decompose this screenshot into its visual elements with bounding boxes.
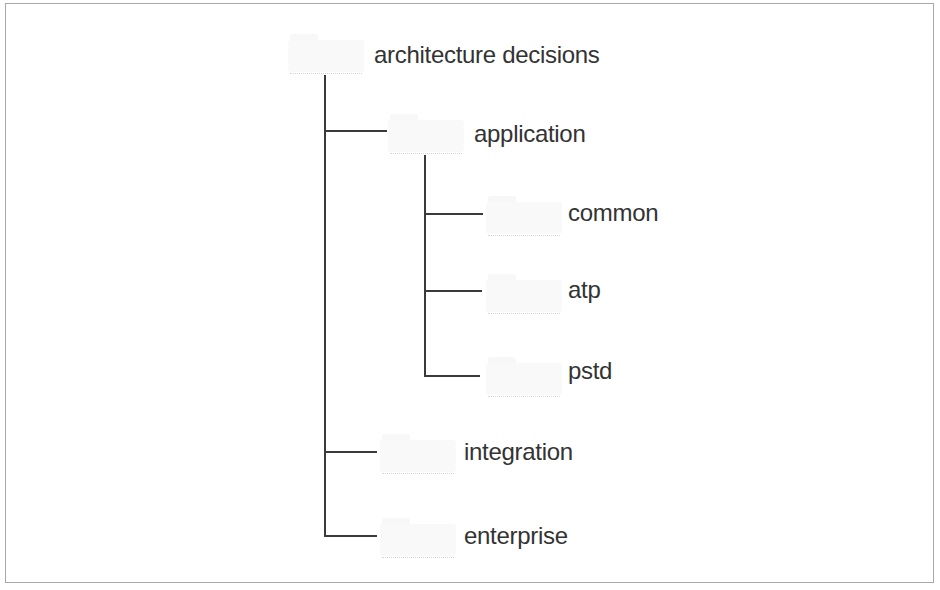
branch-integration <box>324 451 377 453</box>
folder-icon <box>380 432 456 478</box>
tree-trunk-root <box>324 75 326 537</box>
node-label-atp: atp <box>568 276 600 304</box>
folder-icon <box>486 272 562 318</box>
node-label-pstd: pstd <box>568 357 612 385</box>
folder-icon <box>380 516 456 562</box>
node-label-common: common <box>568 199 658 227</box>
branch-application <box>324 130 387 132</box>
folder-icon <box>388 112 464 158</box>
folder-icon <box>288 32 364 78</box>
tree-trunk-application <box>424 155 426 377</box>
folder-icon <box>486 355 562 401</box>
branch-pstd <box>424 375 480 377</box>
branch-enterprise <box>324 535 377 537</box>
node-label-integration: integration <box>464 438 573 466</box>
node-label-architecture-decisions: architecture decisions <box>374 41 600 69</box>
branch-atp <box>424 290 482 292</box>
figure-frame <box>5 3 934 583</box>
folder-icon <box>486 194 562 240</box>
node-label-enterprise: enterprise <box>464 522 568 550</box>
branch-common <box>424 213 483 215</box>
node-label-application: application <box>474 120 585 148</box>
